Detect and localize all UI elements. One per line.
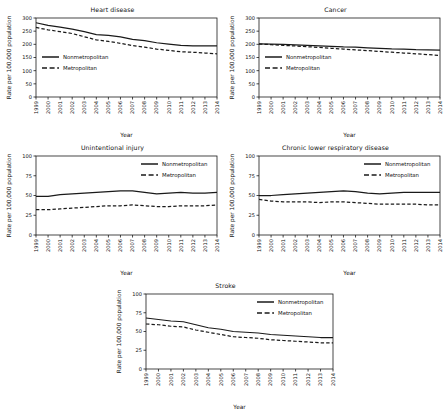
x-axis-label: Year — [342, 270, 356, 276]
x-tick-label: 2012 — [413, 239, 419, 252]
x-tick-label: 2010 — [280, 373, 286, 386]
x-tick-label: 2011 — [178, 101, 184, 114]
x-tick-label: 2014 — [437, 101, 443, 114]
x-tick-label: 2003 — [81, 239, 87, 252]
x-tick-label: 1999 — [33, 101, 39, 114]
series-line-metropolitan — [36, 27, 217, 53]
x-tick-label: 2004 — [205, 373, 211, 386]
plot-frame — [259, 156, 440, 235]
x-tick-label: 2009 — [153, 101, 159, 114]
x-tick-label: 2010 — [389, 239, 395, 252]
y-tick-label: 50 — [249, 81, 255, 87]
x-tick-label: 2006 — [340, 101, 346, 114]
x-tick-label: 1999 — [143, 373, 149, 386]
y-tick-label: 50 — [249, 192, 255, 198]
y-tick-label: 100 — [245, 68, 255, 74]
y-tick-label: 0 — [252, 94, 255, 100]
y-tick-label: 200 — [22, 41, 32, 47]
x-tick-label: 2009 — [376, 101, 382, 114]
panel-cancer: Cancer0501001502002503001999200020012002… — [225, 6, 446, 141]
x-tick-label: 2001 — [57, 239, 63, 252]
x-tick-label: 2011 — [401, 101, 407, 114]
y-tick-label: 75 — [136, 310, 142, 316]
plot-area-unintentional-injury: 0255075100199920002001200220032004200520… — [2, 144, 223, 279]
y-tick-label: 100 — [22, 68, 32, 74]
series-line-nonmetropolitan — [36, 191, 217, 197]
x-tick-label: 2006 — [117, 239, 123, 252]
panel-chronic-lower-respiratory-disease: Chronic lower respiratory disease0255075… — [225, 144, 446, 279]
x-tick-label: 2004 — [316, 239, 322, 252]
x-tick-label: 2008 — [141, 239, 147, 252]
panel-unintentional-injury: Unintentional injury02550751001999200020… — [2, 144, 223, 279]
x-tick-label: 2002 — [180, 373, 186, 386]
x-tick-label: 2012 — [190, 101, 196, 114]
x-tick-label: 2014 — [214, 101, 220, 114]
y-tick-label: 25 — [249, 212, 255, 218]
x-tick-label: 2001 — [57, 101, 63, 114]
y-tick-label: 300 — [245, 15, 255, 21]
series-line-metropolitan — [146, 324, 333, 343]
x-tick-label: 2002 — [292, 101, 298, 114]
y-tick-label: 50 — [26, 81, 32, 87]
y-tick-label: 0 — [252, 232, 255, 238]
x-tick-label: 1999 — [256, 239, 262, 252]
x-tick-label: 2005 — [328, 239, 334, 252]
x-tick-label: 2013 — [425, 239, 431, 252]
x-tick-label: 2007 — [352, 101, 358, 114]
plot-area-stroke: 0255075100199920002001200220032004200520… — [112, 282, 339, 413]
series-line-metropolitan — [259, 199, 440, 205]
plot-area-heart-disease: 0501001502002503001999200020012002200320… — [2, 6, 223, 141]
legend-label-nonmetropolitan: Nonmetropolitan — [286, 54, 331, 61]
x-tick-label: 2012 — [413, 101, 419, 114]
y-tick-label: 75 — [249, 173, 255, 179]
x-tick-label: 2006 — [340, 239, 346, 252]
y-tick-label: 250 — [245, 28, 255, 34]
legend-label-metropolitan: Metropolitan — [286, 65, 320, 72]
y-axis-label: Rate per 100,000 population — [229, 16, 236, 100]
y-tick-label: 0 — [139, 366, 142, 372]
x-tick-label: 2011 — [401, 239, 407, 252]
x-tick-label: 2001 — [280, 101, 286, 114]
x-tick-label: 2004 — [93, 101, 99, 114]
x-tick-label: 2014 — [437, 239, 443, 252]
legend-label-metropolitan: Metropolitan — [63, 65, 97, 72]
y-tick-label: 25 — [136, 347, 142, 353]
x-tick-label: 2013 — [317, 373, 323, 386]
legend-label-metropolitan: Metropolitan — [278, 310, 312, 317]
x-axis-label: Year — [232, 404, 246, 410]
legend-label-metropolitan: Metropolitan — [385, 172, 419, 179]
plot-frame — [36, 156, 217, 235]
y-tick-label: 0 — [29, 94, 32, 100]
x-axis-label: Year — [119, 132, 133, 138]
x-tick-label: 2003 — [304, 101, 310, 114]
x-tick-label: 2001 — [168, 373, 174, 386]
y-tick-label: 0 — [29, 232, 32, 238]
x-tick-label: 2005 — [105, 101, 111, 114]
x-tick-label: 2009 — [153, 239, 159, 252]
x-tick-label: 2007 — [129, 101, 135, 114]
legend-label-nonmetropolitan: Nonmetropolitan — [63, 54, 108, 61]
x-tick-label: 2008 — [255, 373, 261, 386]
x-tick-label: 2010 — [389, 101, 395, 114]
x-tick-label: 2007 — [243, 373, 249, 386]
series-line-nonmetropolitan — [36, 23, 217, 46]
x-tick-label: 2012 — [305, 373, 311, 386]
x-tick-label: 2010 — [166, 239, 172, 252]
series-line-metropolitan — [36, 205, 217, 210]
y-tick-label: 300 — [22, 15, 32, 21]
x-tick-label: 2003 — [81, 101, 87, 114]
x-tick-label: 2014 — [330, 373, 336, 386]
series-line-nonmetropolitan — [146, 318, 333, 338]
y-tick-label: 100 — [132, 291, 142, 297]
panel-heart-disease: Heart disease050100150200250300199920002… — [2, 6, 223, 141]
y-axis-label: Rate per 100,000 population — [116, 290, 123, 374]
x-tick-label: 2003 — [193, 373, 199, 386]
y-tick-label: 50 — [26, 192, 32, 198]
x-tick-label: 2010 — [166, 101, 172, 114]
x-tick-label: 2002 — [292, 239, 298, 252]
x-tick-label: 2005 — [328, 101, 334, 114]
y-tick-label: 150 — [245, 54, 255, 60]
x-tick-label: 2003 — [304, 239, 310, 252]
x-tick-label: 2000 — [155, 373, 161, 386]
panel-stroke: Stroke0255075100199920002001200220032004… — [112, 282, 339, 413]
